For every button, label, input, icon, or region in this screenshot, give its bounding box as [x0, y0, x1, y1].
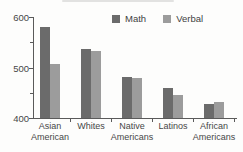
y-axis-major-tick [29, 118, 33, 119]
category-label-line: Americans [179, 132, 243, 143]
verbal-bar [132, 78, 142, 118]
verbal-bar [50, 64, 60, 118]
math-bar [122, 77, 132, 118]
y-axis-major-tick [29, 68, 33, 69]
category-label-line: American [15, 132, 85, 143]
y-axis-minor-tick [30, 42, 33, 43]
math-bar [163, 88, 173, 118]
y-axis-minor-tick [30, 93, 33, 94]
verbal-bar [91, 51, 101, 118]
verbal-bar [173, 95, 183, 118]
math-bar [204, 104, 214, 118]
plot-area: 400500600AsianAmericanWhitesNativeAmeric… [0, 0, 243, 152]
x-axis-line [33, 118, 237, 119]
verbal-bar [214, 102, 224, 118]
category-label: AfricanAmericans [179, 121, 243, 142]
y-axis-major-tick [29, 17, 33, 18]
y-axis-tick-label: 600 [7, 12, 29, 23]
category-label-line: Americans [97, 132, 167, 143]
sat-scores-bar-chart: MathVerbal 400500600AsianAmericanWhitesN… [0, 0, 243, 152]
math-bar [81, 49, 91, 118]
y-axis-line [33, 17, 34, 119]
math-bar [40, 27, 50, 118]
y-axis-tick-label: 500 [7, 63, 29, 74]
category-label-line: African [179, 121, 243, 132]
